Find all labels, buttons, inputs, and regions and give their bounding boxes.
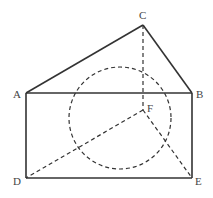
segment-fd [26, 110, 143, 178]
segment-cb [143, 25, 192, 93]
label-f: F [147, 102, 153, 114]
label-d: D [13, 175, 21, 187]
label-b: B [196, 88, 203, 100]
label-e: E [195, 175, 202, 187]
label-a: A [13, 88, 21, 100]
segment-ac [26, 25, 143, 93]
dashed-circle [69, 67, 171, 169]
label-c: C [139, 9, 146, 21]
geometry-diagram: A B C D E F [0, 0, 213, 198]
segment-fe [143, 110, 192, 178]
